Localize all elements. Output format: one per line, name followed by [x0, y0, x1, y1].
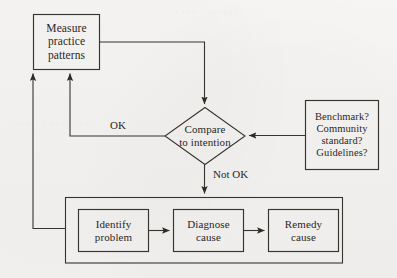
- node-identify-box: [79, 210, 149, 252]
- edge-actions-to-measure: [33, 74, 66, 229]
- flowchart-canvas: [0, 0, 397, 278]
- node-compare-diamond: [165, 108, 245, 165]
- edge-measure-to-compare: [100, 42, 205, 104]
- action-group-container: [66, 198, 343, 264]
- edge-label-ok: OK: [110, 119, 126, 131]
- flowchart-diagram: show-through reverse page text Measure p…: [0, 0, 397, 278]
- node-benchmark-box: [306, 101, 379, 170]
- node-diagnose-box: [174, 210, 244, 252]
- node-measure-box: [34, 15, 100, 70]
- node-remedy-box: [269, 210, 339, 252]
- edge-label-not-ok: Not OK: [213, 168, 248, 180]
